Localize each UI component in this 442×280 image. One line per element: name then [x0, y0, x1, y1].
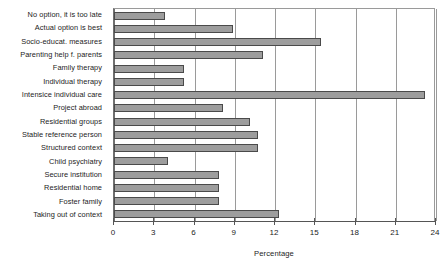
- bar: [114, 78, 184, 86]
- category-label: Taking out of context: [0, 208, 107, 221]
- tick-label: 24: [431, 228, 440, 237]
- bar: [114, 12, 165, 20]
- category-label: Child psychiatry: [0, 154, 107, 167]
- x-axis-title: Percentage: [113, 249, 435, 258]
- bar-row: [114, 9, 434, 22]
- category-label: No option, it is too late: [0, 8, 107, 21]
- plot-area: [113, 8, 435, 221]
- value-axis-line: [113, 221, 435, 222]
- tick-mark: [314, 218, 315, 225]
- tick-label: 12: [270, 228, 279, 237]
- category-label: Foster family: [0, 194, 107, 207]
- tick-label: 9: [232, 228, 236, 237]
- bar-row: [114, 49, 434, 62]
- category-label: Project abroad: [0, 101, 107, 114]
- tick-mark: [113, 218, 114, 225]
- bar-row: [114, 168, 434, 181]
- bar-row: [114, 195, 434, 208]
- category-label: Residential groups: [0, 115, 107, 128]
- category-axis: No option, it is too lateActual option i…: [0, 8, 107, 221]
- bar: [114, 171, 219, 179]
- category-label: Intensice individual care: [0, 88, 107, 101]
- category-label: Individual therapy: [0, 75, 107, 88]
- bar: [114, 157, 168, 165]
- tick-mark: [234, 218, 235, 225]
- tick-label: 3: [151, 228, 155, 237]
- tick-mark: [355, 218, 356, 225]
- bar-row: [114, 22, 434, 35]
- bar: [114, 91, 425, 99]
- tick-label: 18: [350, 228, 359, 237]
- tick-label: 21: [390, 228, 399, 237]
- category-label: Secure institution: [0, 168, 107, 181]
- bar-row: [114, 142, 434, 155]
- category-label: Stable reference person: [0, 128, 107, 141]
- bar-row: [114, 36, 434, 49]
- category-label: Residential home: [0, 181, 107, 194]
- tick-label: 0: [111, 228, 115, 237]
- gridline: [436, 9, 437, 221]
- bar: [114, 51, 263, 59]
- bar: [114, 104, 223, 112]
- bar-row: [114, 181, 434, 194]
- category-label: Socio-educat. measures: [0, 35, 107, 48]
- bar: [114, 118, 250, 126]
- bar-row: [114, 62, 434, 75]
- category-label: Family therapy: [0, 61, 107, 74]
- bar: [114, 131, 258, 139]
- category-label: Actual option is best: [0, 21, 107, 34]
- bar-row: [114, 89, 434, 102]
- bar-row: [114, 75, 434, 88]
- bar-chart: No option, it is too lateActual option i…: [0, 0, 442, 280]
- bar-row: [114, 115, 434, 128]
- bar: [114, 197, 219, 205]
- bar: [114, 210, 279, 218]
- bar-row: [114, 155, 434, 168]
- bar: [114, 184, 219, 192]
- bar-series: [114, 9, 434, 221]
- bar: [114, 144, 258, 152]
- bar: [114, 38, 321, 46]
- tick-mark: [153, 218, 154, 225]
- category-label: Parenting help f. parents: [0, 48, 107, 61]
- tick-label: 15: [310, 228, 319, 237]
- bar-row: [114, 128, 434, 141]
- value-axis-tick-labels: 03691215182124: [113, 228, 435, 240]
- bar-row: [114, 102, 434, 115]
- category-label: Structured context: [0, 141, 107, 154]
- tick-mark: [435, 218, 436, 225]
- tick-mark: [194, 218, 195, 225]
- tick-label: 6: [191, 228, 195, 237]
- tick-mark: [274, 218, 275, 225]
- bar: [114, 25, 233, 33]
- bar: [114, 65, 184, 73]
- tick-mark: [395, 218, 396, 225]
